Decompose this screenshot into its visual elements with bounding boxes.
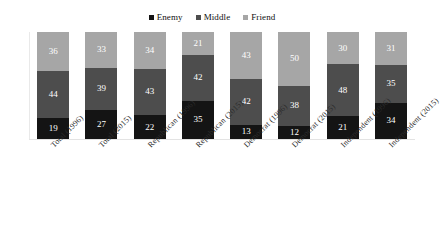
bar-value-label: 22 <box>145 123 154 132</box>
bar-value-label: 44 <box>49 90 58 99</box>
x-axis-labels: Total (1996)Total (2015)Republican (1996… <box>29 141 415 225</box>
bar-value-label: 30 <box>338 44 347 53</box>
bar-value-label: 35 <box>193 115 202 124</box>
bar-value-label: 42 <box>193 73 202 82</box>
bar-value-label: 27 <box>97 120 106 129</box>
bar-value-label: 43 <box>242 51 251 60</box>
bar-segment-middle: 44 <box>37 71 69 119</box>
bar-segment-friend: 31 <box>375 32 407 65</box>
bar-value-label: 36 <box>49 47 58 56</box>
chart-legend: Enemy Middle Friend <box>0 11 424 23</box>
legend-swatch-enemy <box>149 15 154 20</box>
bar-value-label: 21 <box>338 123 347 132</box>
bar-segment-friend: 30 <box>327 32 359 64</box>
bar-segment-friend: 33 <box>85 32 117 68</box>
bar-segment-friend: 21 <box>182 32 214 55</box>
legend-item-friend: Friend <box>243 13 275 22</box>
bar-value-label: 34 <box>386 116 395 125</box>
legend-label-middle: Middle <box>204 13 231 22</box>
legend-item-middle: Middle <box>196 13 231 22</box>
bar-segment-friend: 43 <box>230 32 262 79</box>
bar-value-label: 33 <box>97 45 106 54</box>
bar-value-label: 19 <box>49 124 58 133</box>
legend-swatch-middle <box>196 15 201 20</box>
bar-value-label: 21 <box>193 39 202 48</box>
plot-bottom-axis-line <box>29 139 415 140</box>
bar-value-label: 34 <box>145 46 154 55</box>
legend-item-enemy: Enemy <box>149 13 183 22</box>
legend-label-enemy: Enemy <box>157 13 183 22</box>
legend-label-friend: Friend <box>251 13 275 22</box>
bar-stack: 364419 <box>37 32 69 139</box>
bar-segment-friend: 36 <box>37 32 69 71</box>
bar-value-label: 50 <box>290 54 299 63</box>
bar-value-label: 31 <box>386 44 395 53</box>
legend-swatch-friend <box>243 15 248 20</box>
